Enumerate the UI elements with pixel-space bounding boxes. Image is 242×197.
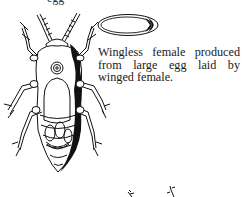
partial-insect-icon — [128, 186, 175, 197]
figure-caption: Wingless female produced from large egg … — [98, 46, 240, 84]
wingless-female-icon — [4, 13, 110, 172]
insect-illustration — [0, 0, 242, 197]
egg-icon — [98, 15, 158, 36]
